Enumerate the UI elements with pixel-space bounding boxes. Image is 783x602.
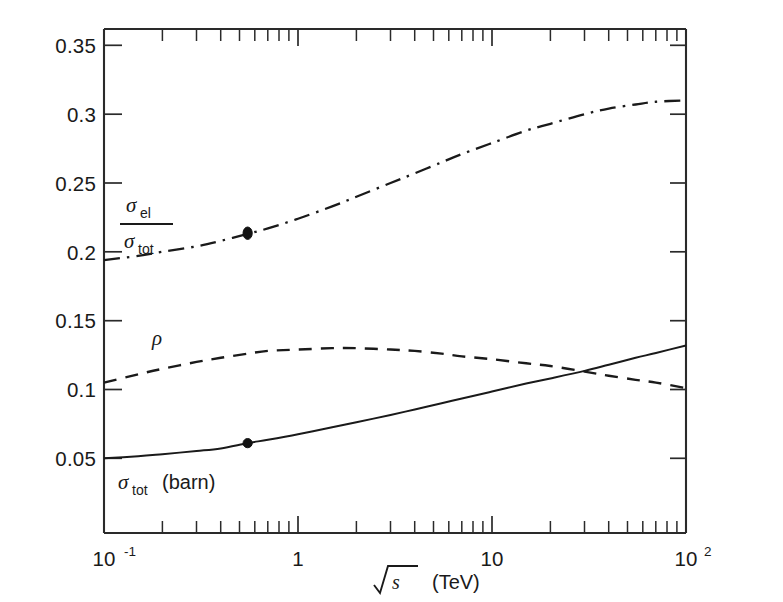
y-tick-label-0: 0.35 (55, 34, 96, 57)
annotation-sigma-tot: σ tot (barn) (118, 470, 215, 498)
x-tick-label-0-base: 10 (92, 547, 115, 570)
y-tick-label-2: 0.25 (55, 172, 96, 195)
data-point-sigma-tot (243, 439, 252, 448)
x-axis-title-units: (TeV) (432, 571, 480, 593)
y-tick-labels: 0.35 0.3 0.25 0.2 0.15 0.1 0.05 (55, 34, 96, 470)
x-axis-ticks-bottom (162, 516, 677, 533)
y-tick-label-4: 0.15 (55, 309, 96, 332)
plot-frame (104, 29, 686, 533)
figure-container: 0.35 0.3 0.25 0.2 0.15 0.1 0.05 10 -1 1 … (0, 0, 783, 602)
y-axis-ticks-right (670, 45, 686, 458)
curve-sigma-el-over-sigma-tot (104, 100, 686, 260)
chart-svg: 0.35 0.3 0.25 0.2 0.15 0.1 0.05 10 -1 1 … (0, 0, 783, 602)
rho-label: ρ (151, 326, 162, 350)
sigma-tot-label-sigma: σ (118, 470, 130, 494)
x-tick-label-3-base: 10 (674, 547, 697, 570)
sigma-tot-label-units: (barn) (162, 471, 215, 493)
data-points (243, 227, 252, 448)
x-axis-title: s (TeV) (374, 566, 480, 593)
x-tick-label-3-exp: 2 (704, 544, 712, 559)
annotation-sigma-ratio: σ el σ tot (120, 193, 173, 257)
y-tick-label-5: 0.1 (67, 378, 96, 401)
annotation-rho: ρ (151, 326, 162, 350)
y-tick-label-3: 0.2 (67, 241, 96, 264)
y-tick-label-1: 0.3 (67, 103, 96, 126)
x-axis-ticks-top (162, 29, 677, 46)
sigma-tot-label-subscript: tot (132, 482, 148, 498)
ratio-numerator-sigma: σ (126, 193, 138, 217)
ratio-denominator-sigma: σ (124, 229, 136, 253)
ratio-numerator-subscript: el (140, 205, 151, 221)
data-point-sigma-el-ratio (243, 227, 252, 239)
y-tick-label-6: 0.05 (55, 447, 96, 470)
x-tick-label-1: 1 (292, 547, 304, 570)
x-axis-title-sqrt-arg: s (392, 571, 400, 593)
y-axis-ticks-left (104, 45, 122, 458)
x-tick-label-0-exp: -1 (124, 544, 136, 559)
x-tick-label-2: 10 (480, 547, 503, 570)
ratio-denominator-subscript: tot (138, 241, 154, 257)
